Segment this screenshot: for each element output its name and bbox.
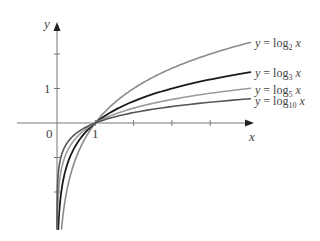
- curve-label-log3: y = log3 x: [254, 66, 301, 82]
- curve-log2: [62, 42, 251, 229]
- log-functions-chart: y x 0 1 1 y = log2 xy = log3 xy = log5 x…: [0, 0, 320, 241]
- curve-label-log10: y = log10 x: [254, 94, 305, 110]
- curve-label-log2: y = log2 x: [254, 36, 301, 52]
- origin-label: 0: [46, 126, 53, 141]
- x-tick-label-1: 1: [92, 126, 99, 141]
- x-axis-label: x: [248, 129, 255, 144]
- curves: [57, 42, 250, 229]
- curve-log10: [57, 99, 250, 229]
- x-axis-arrow-icon: [245, 120, 254, 127]
- y-tick-label-1: 1: [44, 81, 51, 96]
- curve-labels: y = log2 xy = log3 xy = log5 xy = log10 …: [254, 36, 305, 110]
- y-axis-label: y: [42, 16, 50, 31]
- curve-log3: [58, 72, 250, 229]
- y-axis-arrow-icon: [54, 22, 61, 31]
